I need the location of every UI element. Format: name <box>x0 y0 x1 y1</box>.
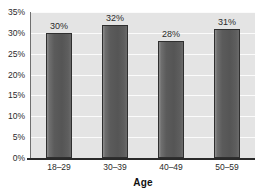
x-axis-title: Age <box>31 177 255 188</box>
gridline <box>31 12 255 13</box>
bar-value-label: 31% <box>218 18 236 27</box>
x-axis-category-label: 30–39 <box>103 163 127 172</box>
y-axis-tick-label: 15% <box>0 91 25 100</box>
x-axis-category-label: 50–59 <box>215 163 239 172</box>
bar <box>158 41 184 158</box>
x-axis-line <box>27 158 255 160</box>
y-axis-tick-labels: 35%30%25%20%15%10%5%0% <box>0 12 28 158</box>
bar <box>46 33 72 158</box>
bar-value-label: 28% <box>162 30 180 39</box>
bar <box>102 25 128 158</box>
y-axis-tick-label: 10% <box>0 112 25 121</box>
y-axis-tick-label: 35% <box>0 8 25 17</box>
y-axis-tick-label: 0% <box>0 154 25 163</box>
x-axis-category-label: 18–29 <box>47 163 71 172</box>
y-axis-tick-label: 5% <box>0 133 25 142</box>
y-axis-tick-label: 20% <box>0 70 25 79</box>
bar-value-label: 32% <box>106 14 124 23</box>
y-axis-tick-label: 25% <box>0 49 25 58</box>
bar <box>214 29 240 158</box>
plot-area <box>31 12 255 158</box>
bar-value-label: 30% <box>50 22 68 31</box>
chart-title <box>0 0 255 1</box>
y-axis-line <box>30 12 31 159</box>
bar-chart: 35%30%25%20%15%10%5%0% 30%32%28%31% 18–2… <box>0 0 255 194</box>
y-axis-tick-label: 30% <box>0 29 25 38</box>
x-axis-category-label: 40–49 <box>159 163 183 172</box>
